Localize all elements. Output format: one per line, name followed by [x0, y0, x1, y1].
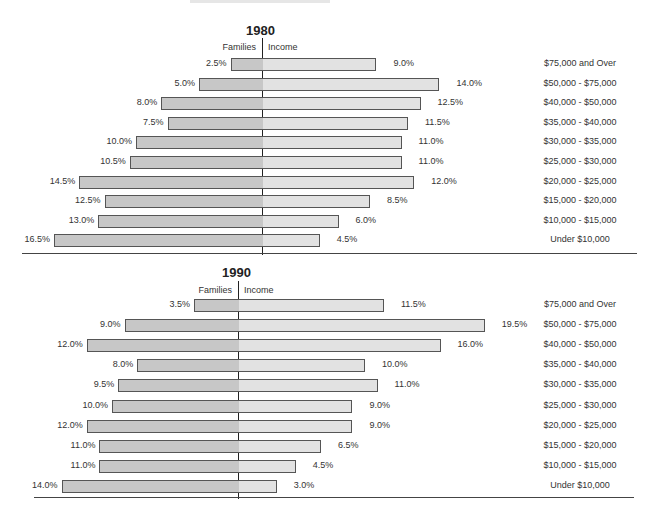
families-bar	[125, 319, 239, 332]
families-value-label: 11.0%	[71, 439, 96, 452]
income-bracket-label: $35,000 - $40,000	[515, 358, 645, 371]
income-bar	[239, 319, 485, 332]
families-bar	[161, 97, 263, 110]
income-bar	[263, 195, 370, 208]
families-bar	[54, 234, 263, 247]
cropped-caption	[190, 0, 330, 3]
families-bar	[168, 117, 264, 130]
families-value-label: 11.0%	[71, 459, 96, 472]
income-bar	[239, 379, 378, 392]
families-value-label: 16.5%	[25, 233, 51, 246]
income-value-label: 9.0%	[393, 57, 414, 70]
income-bracket-label: $15,000 - $20,000	[515, 194, 645, 207]
income-bracket-label: $20,000 - $25,000	[515, 175, 645, 188]
income-value-label: 3.0%	[294, 479, 315, 492]
families-bar	[130, 156, 263, 169]
income-bracket-label: $40,000 - $50,000	[515, 338, 645, 351]
income-bracket-label: $25,000 - $30,000	[515, 155, 645, 168]
families-value-label: 9.0%	[100, 318, 121, 331]
income-bar	[263, 58, 376, 71]
income-value-label: 8.5%	[387, 194, 408, 207]
income-header: Income	[268, 42, 298, 52]
income-value-label: 9.0%	[369, 419, 390, 432]
families-bar	[62, 480, 239, 493]
families-value-label: 12.0%	[57, 419, 83, 432]
baseline-rule	[34, 497, 634, 498]
income-value-label: 4.5%	[313, 459, 334, 472]
families-value-label: 10.0%	[82, 399, 108, 412]
income-bracket-label: $50,000 - $75,000	[515, 77, 645, 90]
income-value-label: 9.0%	[369, 399, 390, 412]
families-bar	[231, 58, 264, 71]
families-bar	[194, 299, 239, 312]
families-value-label: 7.5%	[143, 116, 164, 129]
income-bar	[239, 460, 296, 473]
income-bar	[263, 78, 439, 91]
income-value-label: 11.0%	[395, 378, 420, 391]
families-value-label: 5.0%	[174, 77, 195, 90]
families-bar	[199, 78, 263, 91]
income-bracket-label: $75,000 and Over	[515, 57, 645, 70]
income-bar	[239, 440, 321, 453]
income-value-label: 11.5%	[401, 298, 426, 311]
income-bracket-label: $50,000 - $75,000	[515, 318, 645, 331]
income-value-label: 6.5%	[338, 439, 359, 452]
income-value-label: 4.5%	[337, 233, 358, 246]
income-bracket-label: $10,000 - $15,000	[515, 459, 645, 472]
families-bar	[79, 176, 263, 189]
income-bar	[239, 339, 441, 352]
income-bracket-label: Under $10,000	[515, 233, 645, 246]
income-bar	[239, 420, 352, 433]
families-bar	[137, 359, 239, 372]
income-bar	[263, 136, 402, 149]
families-bar	[87, 339, 239, 352]
income-value-label: 14.0%	[456, 77, 482, 90]
income-bar	[239, 480, 277, 493]
families-header: Families	[198, 285, 232, 295]
income-bracket-label: $10,000 - $15,000	[515, 214, 645, 227]
families-bar	[87, 420, 239, 433]
income-value-label: 11.0%	[419, 135, 444, 148]
income-header: Income	[244, 285, 274, 295]
income-value-label: 12.5%	[438, 96, 464, 109]
families-value-label: 12.5%	[75, 194, 101, 207]
income-bar	[263, 234, 320, 247]
families-header: Families	[222, 42, 256, 52]
families-value-label: 2.5%	[206, 57, 227, 70]
income-value-label: 6.0%	[356, 214, 377, 227]
income-value-label: 12.0%	[431, 175, 457, 188]
families-value-label: 9.5%	[94, 378, 115, 391]
income-bracket-label: $20,000 - $25,000	[515, 419, 645, 432]
families-bar	[99, 440, 239, 453]
income-bar	[239, 359, 365, 372]
income-bar	[239, 299, 384, 312]
families-value-label: 12.0%	[57, 338, 83, 351]
families-value-label: 13.0%	[69, 214, 95, 227]
income-bar	[239, 400, 352, 413]
families-value-label: 14.5%	[50, 175, 76, 188]
families-value-label: 10.0%	[106, 135, 132, 148]
income-bracket-label: $25,000 - $30,000	[515, 399, 645, 412]
families-value-label: 10.5%	[100, 155, 126, 168]
families-bar	[98, 215, 263, 228]
income-bracket-label: $40,000 - $50,000	[515, 96, 645, 109]
families-value-label: 8.0%	[113, 358, 134, 371]
income-value-label: 16.0%	[458, 338, 484, 351]
income-bracket-label: $30,000 - $35,000	[515, 135, 645, 148]
income-bracket-label: $15,000 - $20,000	[515, 439, 645, 452]
families-bar	[105, 195, 264, 208]
income-bracket-label: $30,000 - $35,000	[515, 378, 645, 391]
baseline-rule	[22, 253, 637, 254]
families-value-label: 8.0%	[137, 96, 158, 109]
income-bar	[263, 156, 402, 169]
income-value-label: 10.0%	[382, 358, 408, 371]
families-bar	[99, 460, 239, 473]
income-bracket-label: $75,000 and Over	[515, 298, 645, 311]
income-bar	[263, 215, 339, 228]
income-bracket-label: $35,000 - $40,000	[515, 116, 645, 129]
families-bar	[112, 400, 239, 413]
families-bar	[136, 136, 263, 149]
families-bar	[118, 379, 239, 392]
chart-title: 1990	[222, 265, 251, 280]
families-value-label: 3.5%	[169, 298, 190, 311]
